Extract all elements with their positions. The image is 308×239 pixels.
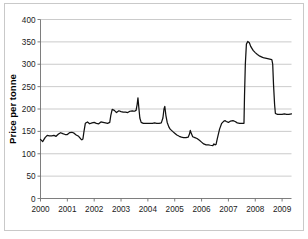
x-tick-label-2004: 2004: [139, 205, 158, 214]
x-tick-label-2002: 2002: [85, 205, 104, 214]
y-tick-label-400: 400: [22, 16, 36, 25]
chart-figure: 050100150200250300350400 200020012002200…: [0, 0, 308, 239]
x-tick-label-2007: 2007: [219, 205, 238, 214]
y-tick-label-50: 50: [26, 172, 36, 181]
y-tick-label-350: 350: [22, 38, 36, 47]
y-tick-label-0: 0: [31, 195, 36, 204]
y-tick-label-100: 100: [22, 150, 36, 159]
y-tick-label-200: 200: [22, 105, 36, 114]
x-tick-label-2009: 2009: [273, 205, 292, 214]
y-tick-label-250: 250: [22, 83, 36, 92]
x-tick-label-2000: 2000: [31, 205, 50, 214]
line-chart-svg: 050100150200250300350400 200020012002200…: [0, 0, 308, 239]
gridlines-group: [41, 20, 292, 177]
y-tick-labels-group: 050100150200250300350400: [22, 16, 36, 204]
x-tick-label-2003: 2003: [112, 205, 131, 214]
y-axis-title: Price per tonne: [7, 74, 18, 144]
x-tick-label-2005: 2005: [166, 205, 185, 214]
x-tick-label-2006: 2006: [192, 205, 211, 214]
y-tick-label-300: 300: [22, 60, 36, 69]
price-series-line: [41, 41, 292, 145]
x-tick-labels-group: 2000200120022003200420052006200720082009: [31, 205, 291, 214]
y-tick-label-150: 150: [22, 127, 36, 136]
chart-plot-area: 050100150200250300350400 200020012002200…: [0, 0, 308, 239]
x-tick-label-2008: 2008: [246, 205, 265, 214]
x-tick-label-2001: 2001: [58, 205, 77, 214]
